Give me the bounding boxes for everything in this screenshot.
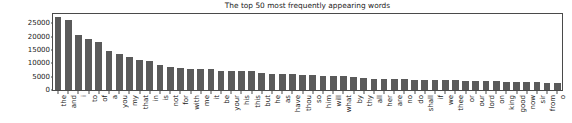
x-axis-tick-mark [149, 91, 150, 94]
x-axis-label-slot: good [511, 91, 521, 123]
bar [279, 74, 286, 90]
chart-figure: The top 50 most frequently appearing wor… [0, 0, 572, 123]
bar-slot [491, 14, 501, 90]
x-axis-label-slot: to [84, 91, 94, 123]
x-axis-tick-mark [312, 91, 313, 94]
x-axis-labels: theanditoofayoumythatinisnotforwithmeitb… [53, 91, 562, 123]
x-axis-label-slot: is [155, 91, 165, 123]
x-axis-tick-mark [210, 91, 211, 94]
x-axis-tick-mark [435, 91, 436, 94]
x-axis-tick-mark [159, 91, 160, 94]
x-axis-tick-mark [506, 91, 507, 94]
x-axis-label-slot: from [542, 91, 552, 123]
bar [75, 35, 82, 90]
x-axis-label-slot: not [165, 91, 175, 123]
bar-slot [236, 14, 246, 90]
x-axis-tick-mark [251, 91, 252, 94]
bar [503, 82, 510, 90]
x-axis-tick-mark [241, 91, 242, 94]
bar-slot [471, 14, 481, 90]
x-axis-tick-mark [404, 91, 405, 94]
bar [483, 81, 490, 90]
x-axis-tick-mark [139, 91, 140, 94]
x-axis-tick-mark [119, 91, 120, 94]
bar [452, 80, 459, 90]
bar-slot [552, 14, 562, 90]
y-axis-tick-label: 15000 [28, 47, 53, 54]
bar [157, 65, 164, 90]
bar [544, 83, 551, 90]
x-axis-tick-mark [363, 91, 364, 94]
x-axis-tick-mark [98, 91, 99, 94]
bar [411, 80, 418, 90]
bar-slot [328, 14, 338, 90]
x-axis-tick-mark [322, 91, 323, 94]
x-axis-label-slot: are [389, 91, 399, 123]
bar [299, 75, 306, 90]
x-axis-label-slot: no [399, 91, 409, 123]
bar-slot [226, 14, 236, 90]
bar-slot [53, 14, 63, 90]
x-axis-label-slot: if [430, 91, 440, 123]
bar-slot [511, 14, 521, 90]
bar [95, 42, 102, 90]
bar-slot [267, 14, 277, 90]
bar [371, 79, 378, 90]
bar [534, 82, 541, 90]
x-axis-tick-mark [272, 91, 273, 94]
bar-slot [338, 14, 348, 90]
x-axis-tick-mark [261, 91, 262, 94]
bar [360, 78, 367, 90]
x-axis-label-slot: by [348, 91, 358, 123]
bar-slot [216, 14, 226, 90]
x-axis-label-slot: so [308, 91, 318, 123]
x-axis-label-slot: o [552, 91, 562, 123]
x-axis-tick-mark [343, 91, 344, 94]
x-axis-label-slot: sir [532, 91, 542, 123]
x-axis-label-slot: this [247, 91, 257, 123]
x-axis-tick-mark [414, 91, 415, 94]
x-axis-label-slot: you [114, 91, 124, 123]
bar-slot [145, 14, 155, 90]
bar [350, 77, 357, 90]
bar-slot [430, 14, 440, 90]
x-axis-tick-label: o [560, 95, 567, 99]
x-axis-tick-mark [424, 91, 425, 94]
bar [116, 54, 123, 90]
y-axis-tick-label: 25000 [28, 20, 53, 27]
x-axis-label-slot: of [94, 91, 104, 123]
bar [472, 81, 479, 90]
x-axis-tick-mark [536, 91, 537, 94]
bar-slot [196, 14, 206, 90]
x-axis-label-slot: what [338, 91, 348, 123]
x-axis-label-slot: in [145, 91, 155, 123]
x-axis-label-slot: the [53, 91, 63, 123]
bar [493, 81, 500, 90]
x-axis-tick-mark [170, 91, 171, 94]
x-axis-label-slot: have [287, 91, 297, 123]
x-axis-label-slot: will [328, 91, 338, 123]
y-axis-tick-label: 20000 [28, 33, 53, 40]
x-axis-label-slot: now [522, 91, 532, 123]
bar [167, 67, 174, 90]
x-axis-label-slot: thy [359, 91, 369, 123]
x-axis-label-slot: him [318, 91, 328, 123]
x-axis-label-slot: be [216, 91, 226, 123]
bar-slot [379, 14, 389, 90]
bar-slot [308, 14, 318, 90]
bar [258, 73, 265, 90]
x-axis-tick-mark [455, 91, 456, 94]
x-axis-tick-mark [333, 91, 334, 94]
bar-slot [175, 14, 185, 90]
x-axis-tick-mark [180, 91, 181, 94]
bar [177, 68, 184, 90]
bar-slot [410, 14, 420, 90]
bar [65, 20, 72, 90]
bar [432, 80, 439, 90]
x-axis-label-slot: thee [450, 91, 460, 123]
x-axis-label-slot: as [277, 91, 287, 123]
bar-slot [277, 14, 287, 90]
bar [248, 71, 255, 90]
bar-slot [369, 14, 379, 90]
bar [208, 69, 215, 90]
